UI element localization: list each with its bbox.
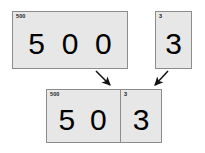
ones-card: 3 3 (155, 11, 192, 69)
result-ones-part-label: 3 (124, 91, 127, 98)
result-hundreds-part: 500 5 0 (46, 89, 121, 143)
place-value-diagram: 500 5 0 0 3 3 500 5 0 3 3 (0, 0, 205, 153)
ones-card-digits: 3 (156, 20, 191, 68)
digit: 0 (62, 29, 79, 59)
result-ones-part: 3 3 (120, 89, 162, 143)
digit: 5 (28, 29, 45, 59)
digit: 3 (165, 29, 182, 59)
digit: 0 (90, 105, 107, 135)
hundreds-card: 500 5 0 0 (12, 11, 128, 69)
result-hundreds-part-digits: 5 0 (47, 98, 120, 142)
arrow-from-ones (155, 71, 168, 85)
ones-card-label: 3 (159, 13, 162, 20)
arrow-from-hundreds (96, 71, 110, 85)
hundreds-card-digits: 5 0 0 (13, 20, 127, 68)
digit: 3 (133, 105, 150, 135)
hundreds-card-label: 500 (16, 13, 25, 20)
digit: 5 (58, 105, 75, 135)
result-hundreds-part-label: 500 (50, 91, 59, 98)
digit: 0 (95, 29, 112, 59)
result-ones-part-digits: 3 (121, 98, 161, 142)
